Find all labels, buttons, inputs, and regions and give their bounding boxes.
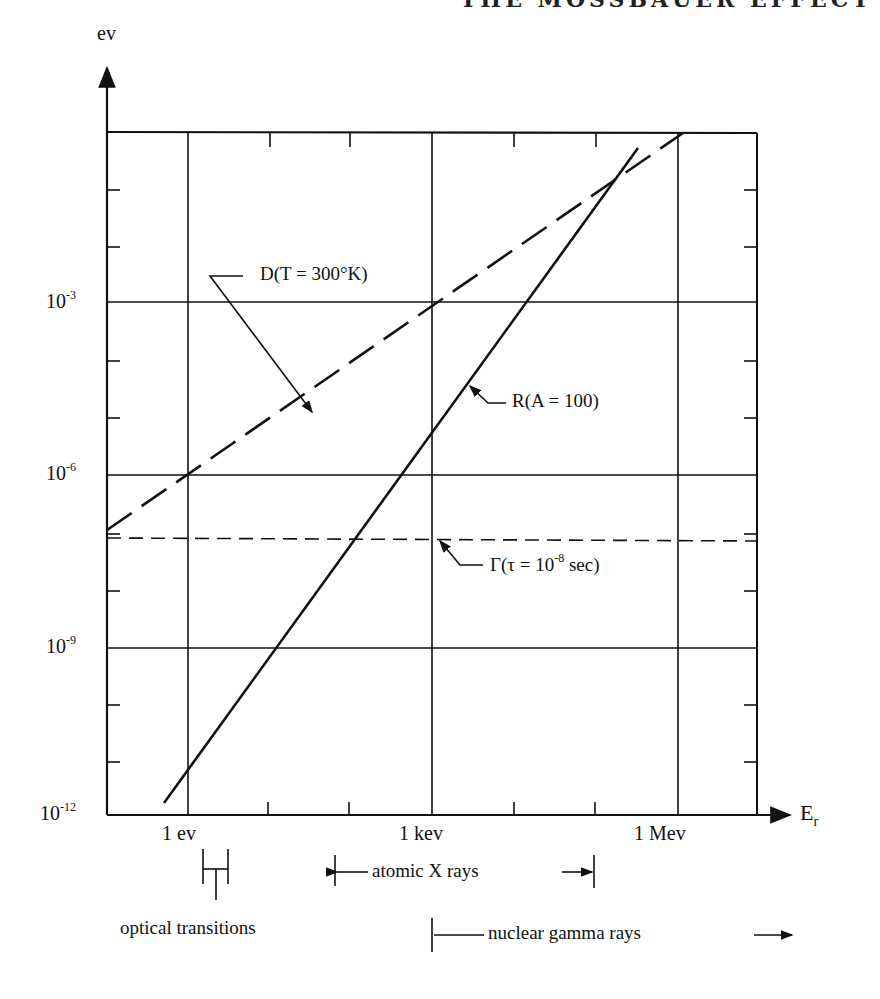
curve-gamma-label: Γ(τ = 10-8 sec) <box>490 551 600 576</box>
x-tick-1kev: 1 kev <box>399 822 443 845</box>
left-minor-ticks <box>107 190 120 762</box>
chart-canvas <box>0 0 880 999</box>
x-tick-1ev: 1 ev <box>162 822 196 845</box>
vertical-gridlines <box>188 133 678 815</box>
curve-D-label: D(T = 300°K) <box>260 263 368 285</box>
range-gamma-label: nuclear gamma rays <box>488 922 641 944</box>
y-tick-1e-9: 10-9 <box>46 633 76 658</box>
top-minor-ticks <box>270 133 596 147</box>
range-xray-label: atomic X rays <box>372 860 479 882</box>
leader-gamma <box>440 541 483 565</box>
y-tick-1e-3: 10-3 <box>46 288 76 313</box>
x-axis-label-main: E <box>800 800 813 825</box>
x-axis-label-sub: r <box>813 814 818 829</box>
right-minor-ticks <box>744 190 757 762</box>
leader-R <box>470 386 506 403</box>
y-axis-label: ev <box>97 22 116 45</box>
x-tick-1mev: 1 Mev <box>634 822 686 845</box>
plot-top-border <box>107 132 757 133</box>
optical-range-bracket <box>203 849 228 900</box>
leader-D <box>210 276 312 412</box>
x-axis-label: Er <box>800 800 818 830</box>
range-optical-label: optical transitions <box>120 917 256 939</box>
y-tick-1e-6: 10-6 <box>46 460 76 485</box>
curve-D-doppler <box>107 133 683 530</box>
curve-R-label: R(A = 100) <box>512 390 599 412</box>
y-tick-1e-12: 10-12 <box>40 800 76 825</box>
